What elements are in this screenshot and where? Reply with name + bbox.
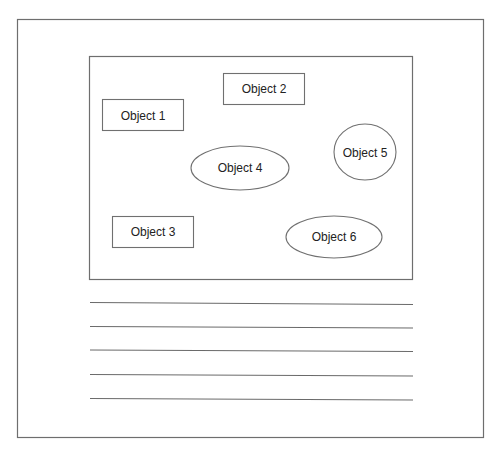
object-6-label: Object 6: [312, 230, 357, 244]
object-1[interactable]: Object 1: [103, 100, 184, 131]
object-4-label: Object 4: [218, 161, 263, 175]
object-3-label: Object 3: [131, 225, 176, 239]
object-4[interactable]: Object 4: [191, 146, 289, 190]
object-3[interactable]: Object 3: [113, 217, 194, 248]
page-layout-diagram: Object 1 Object 2 Object 3 Object 4 Obje…: [0, 0, 498, 451]
object-6[interactable]: Object 6: [286, 216, 382, 258]
object-5-label: Object 5: [343, 146, 388, 160]
object-2-label: Object 2: [242, 82, 287, 96]
object-1-label: Object 1: [121, 109, 166, 123]
object-5[interactable]: Object 5: [334, 124, 396, 180]
object-2[interactable]: Object 2: [224, 74, 305, 105]
